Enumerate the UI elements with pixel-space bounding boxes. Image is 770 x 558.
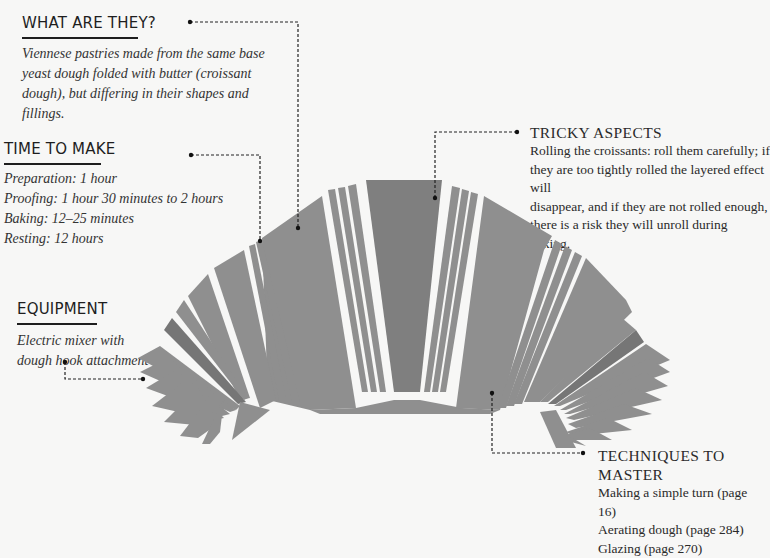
- croissant-shape: [138, 180, 670, 448]
- leader-equipment: [65, 362, 143, 379]
- text-line: Aerating dough (page 284): [598, 521, 768, 540]
- leader-what-are-they: [190, 22, 298, 228]
- leader-time-to-make: [191, 155, 260, 241]
- leader-tricky-aspects: [435, 132, 517, 198]
- text-line: Glazing (page 270): [598, 540, 768, 558]
